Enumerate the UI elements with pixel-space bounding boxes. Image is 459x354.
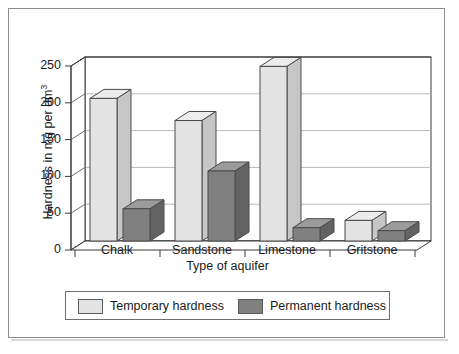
bar-limestone-temporary [260,57,301,241]
y-tick-label-100: 100 [27,168,61,182]
x-category-label-chalk: Chalk [72,243,162,257]
y-tick-label-50: 50 [27,205,61,219]
x-category-label-limestone: Limestone [242,243,332,257]
y-tick-label-0: 0 [27,242,61,256]
legend-entry-permanent-hardness: Permanent hardness [238,297,386,315]
legend-label-temporary-hardness: Temporary hardness [110,299,224,313]
legend-entry-temporary-hardness: Temporary hardness [78,297,224,315]
y-tick-label-250: 250 [27,58,61,72]
chart-legend: Temporary hardness Permanent hardness [65,291,390,320]
bar-chart: Hardness in mg per dm3 Type of aquifer [9,9,446,339]
plot-canvas [9,9,446,339]
legend-label-permanent-hardness: Permanent hardness [270,299,386,313]
legend-swatch-permanent-hardness [238,299,263,314]
y-axis-ticks [65,66,71,250]
bar-sandstone-permanent [208,162,249,241]
figure-panel: Hardness in mg per dm3 Type of aquifer [8,8,445,338]
y-tick-label-200: 200 [27,95,61,109]
x-category-label-gritstone: Gritstone [327,243,417,257]
plot-left-wall [71,57,85,250]
legend-swatch-temporary-hardness [78,299,103,314]
x-category-label-sandstone: Sandstone [157,243,247,257]
bar-chalk-permanent [123,200,164,241]
y-tick-label-150: 150 [27,132,61,146]
